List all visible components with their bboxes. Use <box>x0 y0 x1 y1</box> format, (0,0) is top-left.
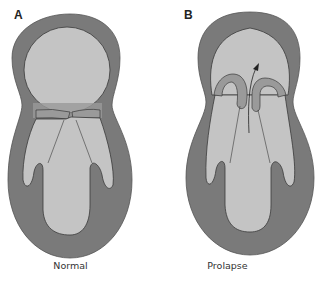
panel-prolapse: B Prolapse <box>160 0 317 283</box>
leaflet-left <box>36 109 70 119</box>
normal-heart-diagram <box>0 0 160 283</box>
caption-normal: Normal <box>8 260 133 271</box>
panel-label-b: B <box>184 8 193 22</box>
prolapse-heart-diagram <box>160 0 317 283</box>
caption-prolapse: Prolapse <box>160 260 295 271</box>
panel-normal: A Normal <box>0 0 160 283</box>
panel-label-a: A <box>14 8 23 22</box>
atrium-chamber <box>24 27 110 113</box>
